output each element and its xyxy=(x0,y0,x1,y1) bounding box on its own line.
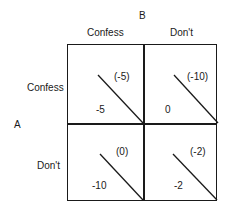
a-payoff: -10 xyxy=(92,180,106,191)
diagonal-divider xyxy=(144,45,219,123)
row-header-confess: Confess xyxy=(27,82,64,93)
diagonal-divider xyxy=(68,45,143,123)
b-payoff: (-10) xyxy=(187,71,208,82)
b-payoff: (-5) xyxy=(114,71,130,82)
payoff-matrix: (-5) -5 (-10) 0 (0) -10 (-2) -2 xyxy=(67,44,217,201)
cell-confess-dont: (-10) 0 xyxy=(144,45,219,123)
a-payoff: -5 xyxy=(96,104,105,115)
a-payoff: 0 xyxy=(165,104,171,115)
row-header-dont: Don't xyxy=(37,160,60,171)
b-payoff: (-2) xyxy=(190,146,206,157)
player-a-label: A xyxy=(14,119,21,130)
a-payoff: -2 xyxy=(174,180,183,191)
col-header-dont: Don't xyxy=(170,27,193,38)
b-payoff: (0) xyxy=(116,146,128,157)
cell-dont-dont: (-2) -2 xyxy=(144,124,219,202)
cell-dont-confess: (0) -10 xyxy=(68,124,143,202)
col-header-confess: Confess xyxy=(87,27,124,38)
player-b-label: B xyxy=(139,10,146,21)
cell-confess-confess: (-5) -5 xyxy=(68,45,143,123)
